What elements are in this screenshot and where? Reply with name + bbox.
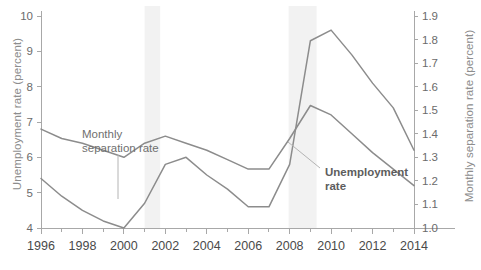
y-axis-right-tick-label: 1.4 xyxy=(422,128,439,140)
unemployment-rate-annotation: Unemployment rate xyxy=(325,166,408,193)
y-axis-right-tick-label: 1.5 xyxy=(422,104,438,116)
x-axis-tick-label: 1996 xyxy=(27,239,55,253)
y-axis-right-tick-label: 1.6 xyxy=(422,81,438,93)
x-axis-tick-label: 2008 xyxy=(276,239,304,253)
y-axis-right-tick-label: 1.3 xyxy=(422,151,438,163)
y-axis-right-tick-label: 1.1 xyxy=(422,198,438,210)
x-axis-tick-label: 1998 xyxy=(69,239,97,253)
x-axis-tick-label: 2006 xyxy=(234,239,262,253)
recession-2001 xyxy=(145,6,161,228)
separation-rate-annotation-line2: separation rate xyxy=(82,142,159,156)
recession-shading-group xyxy=(145,6,317,228)
separation-rate-annotation: Monthly separation rate xyxy=(82,128,159,155)
unemployment-rate-annotation-line2: rate xyxy=(325,180,408,194)
y-axis-right-tick-label: 1.9 xyxy=(422,10,438,22)
y-axis-right-tick-label: 1.0 xyxy=(422,222,438,234)
y-axis-left-tick-label: 8 xyxy=(27,81,33,93)
x-axis-tick-label: 2010 xyxy=(317,239,345,253)
y-axis-left-tick-label: 4 xyxy=(27,222,34,234)
y-axis-left-tick-label: 10 xyxy=(20,10,33,22)
y-axis-left-tick-label: 7 xyxy=(27,116,33,128)
separation-rate-annotation-line1: Monthly xyxy=(82,128,159,142)
x-axis-tick-label: 2014 xyxy=(400,239,428,253)
y-axis-left-tick-label: 9 xyxy=(27,45,33,57)
x-axis-tick-label: 2000 xyxy=(110,239,138,253)
axes-group xyxy=(37,11,455,234)
y-axis-right-tick-label: 1.2 xyxy=(422,175,438,187)
x-axis-tick-label: 2004 xyxy=(193,239,221,253)
line-chart-plot: 456789101.01.11.21.31.41.51.61.71.81.919… xyxy=(0,0,481,270)
y-axis-left-tick-label: 6 xyxy=(27,151,33,163)
y-axis-left-title: Unemployment rate (percent) xyxy=(11,38,23,190)
chart-container: 456789101.01.11.21.31.41.51.61.71.81.919… xyxy=(0,0,481,270)
y-axis-right-title: Monthly separation rate (percent) xyxy=(463,30,475,203)
y-axis-right-tick-label: 1.8 xyxy=(422,34,438,46)
y-axis-left-tick-label: 5 xyxy=(27,187,33,199)
x-axis-tick-label: 2012 xyxy=(359,239,387,253)
x-axis-tick-label: 2002 xyxy=(151,239,179,253)
unemployment-rate-annotation-line1: Unemployment xyxy=(325,166,408,180)
y-axis-right-tick-label: 1.7 xyxy=(422,57,438,69)
